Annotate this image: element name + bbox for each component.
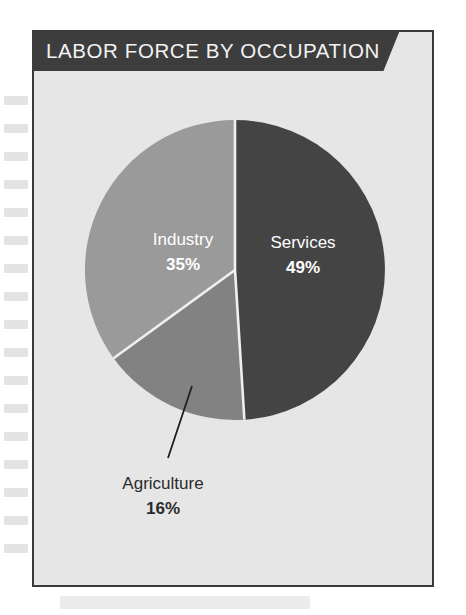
chart-card bbox=[32, 30, 434, 587]
chart-header-banner: LABOR FORCE BY OCCUPATION bbox=[32, 30, 400, 71]
chart-title: LABOR FORCE BY OCCUPATION bbox=[46, 30, 380, 71]
chart-card-background bbox=[34, 32, 432, 585]
